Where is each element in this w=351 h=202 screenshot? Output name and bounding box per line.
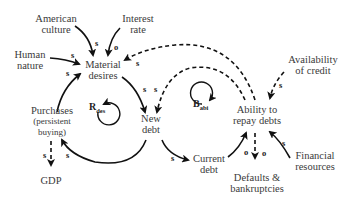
polarity-interest-desires: o: [114, 42, 118, 52]
label-line: Purchases: [26, 105, 78, 116]
label-line: debt: [136, 124, 166, 135]
node-human-nature: Human nature: [10, 49, 50, 71]
label-line: desires: [80, 70, 126, 81]
node-availability-of-credit: Availability of credit: [285, 54, 341, 76]
node-gdp: GDP: [36, 175, 66, 186]
loop-label-babi: Babi: [193, 98, 208, 111]
label-line: buying): [26, 127, 78, 138]
label-line: bankruptcies: [228, 183, 286, 194]
label-line: American: [30, 13, 82, 24]
label-line: Availability: [285, 54, 341, 65]
label-line: Current: [190, 153, 228, 164]
node-financial-resources: Financial resources: [289, 150, 341, 172]
loop-letter: B: [193, 98, 200, 109]
label-line: Ability to: [229, 104, 285, 115]
polarity-newdebt-current: s: [171, 153, 174, 163]
label-line: Material: [80, 59, 126, 70]
polarity-human-desires: s: [71, 50, 74, 60]
label-line: culture: [30, 24, 82, 35]
polarity-purchases-gdp: s: [43, 150, 46, 160]
polarity-desires-newdebt: s: [143, 84, 146, 94]
polarity-purchases-desires: s: [66, 68, 69, 78]
label-line: New: [136, 113, 166, 124]
polarity-culture-desires: s: [95, 38, 98, 48]
label-line: GDP: [36, 175, 66, 186]
polarity-ability-newdebt: s: [154, 84, 157, 94]
node-material-desires: Material desires: [80, 59, 126, 81]
node-ability-to-repay: Ability to repay debts: [229, 104, 285, 126]
polarity-credit-ability: s: [279, 80, 282, 90]
label-line: resources: [289, 161, 341, 172]
arrow-newdebt-purchases: [62, 140, 146, 163]
label-line: of credit: [285, 65, 341, 76]
label-line: Defaults &: [228, 172, 286, 183]
arrow-human-desires: [50, 58, 79, 64]
label-line: (persistent: [26, 116, 78, 127]
node-current-debt: Current debt: [190, 153, 228, 175]
polarity-newdebt-purchases: s: [66, 150, 69, 160]
node-american-culture: American culture: [30, 13, 82, 35]
node-interest-rate: Interest rate: [118, 13, 158, 35]
arrow-newdebt-current: [162, 140, 188, 160]
polarity-current-ability: o: [244, 147, 248, 157]
label-line: Financial: [289, 150, 341, 161]
polarity-financial-ability: s: [282, 138, 285, 148]
loop-label-rdes: Rdes: [89, 101, 105, 114]
label-line: Interest: [118, 13, 158, 24]
node-purchases: Purchases (persistent buying): [26, 105, 78, 138]
loop-subscript: des: [96, 107, 105, 114]
label-line: debt: [190, 164, 228, 175]
label-line: rate: [118, 24, 158, 35]
loop-subscript: abi: [200, 104, 209, 111]
node-defaults-bankruptcies: Defaults & bankruptcies: [228, 172, 286, 194]
label-line: nature: [10, 60, 50, 71]
polarity-ability-desires: s: [136, 58, 139, 68]
label-line: Human: [10, 49, 50, 60]
arrow-desires-newdebt: [122, 77, 145, 112]
label-line: repay debts: [229, 115, 285, 126]
arrow-financial-ability: [270, 132, 290, 158]
polarity-ability-defaults: o: [262, 148, 266, 158]
node-new-debt: New debt: [136, 113, 166, 135]
